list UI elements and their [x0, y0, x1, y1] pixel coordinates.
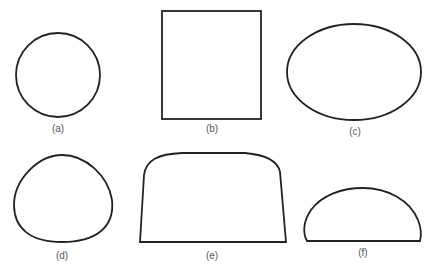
panel-f: (f) [304, 188, 421, 258]
label-e: (e) [206, 250, 218, 261]
panel-b: (b) [162, 11, 261, 134]
panel-d: (d) [14, 155, 112, 261]
rounded-top-trapezoid-shape [140, 153, 286, 242]
label-c: (c) [349, 126, 361, 137]
ellipse-shape [287, 24, 421, 120]
half-ellipse-shape [304, 188, 421, 241]
panel-e: (e) [140, 153, 286, 261]
label-a: (a) [52, 123, 64, 134]
label-b: (b) [206, 123, 218, 134]
square-shape [162, 11, 261, 119]
shapes-figure: (a) (b) (c) (d) (e) (f) [0, 0, 439, 273]
rounded-triangle-shape [14, 155, 112, 242]
panel-c: (c) [287, 24, 421, 137]
label-d: (d) [56, 250, 68, 261]
circle-shape [16, 33, 100, 117]
label-f: (f) [358, 247, 367, 258]
panel-a: (a) [16, 33, 100, 134]
